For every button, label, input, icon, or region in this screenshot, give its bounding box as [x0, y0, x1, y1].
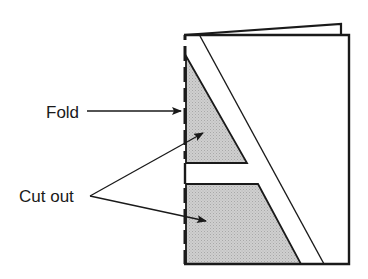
back-page — [184, 24, 341, 35]
folded-card-diagram: Fold Cut out — [0, 0, 368, 279]
cutout-upper — [186, 56, 247, 163]
fold-label: Fold — [46, 103, 79, 122]
cutout-lower — [186, 184, 301, 264]
cut-out-label: Cut out — [19, 187, 74, 206]
